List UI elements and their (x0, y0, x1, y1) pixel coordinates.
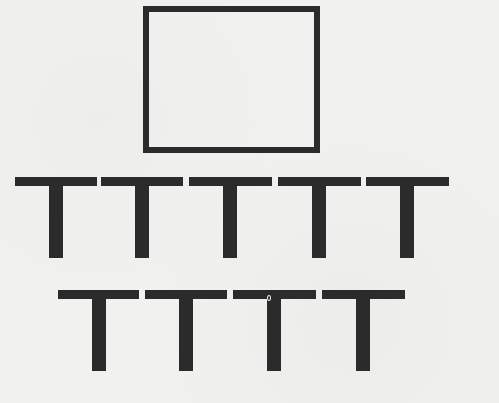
t-stem (179, 298, 193, 371)
t-stem (223, 185, 237, 258)
t-stem (312, 185, 326, 258)
scan-speck (267, 295, 271, 301)
diagram-canvas (0, 0, 499, 403)
t-stem (400, 185, 414, 258)
t-stem (356, 298, 370, 371)
t-stem (135, 185, 149, 258)
t-stem (92, 298, 106, 371)
t-stem (49, 185, 63, 258)
rectangle-shape (143, 6, 320, 153)
t-stem (267, 298, 281, 371)
